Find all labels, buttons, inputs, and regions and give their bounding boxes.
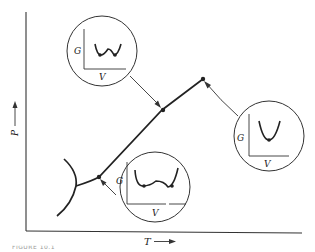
svg-text:G: G — [116, 176, 123, 186]
inset-bottom: G V — [116, 152, 190, 222]
sublimation-melting-curve — [57, 159, 76, 216]
point-lower — [97, 175, 101, 179]
inset-top-left: G V — [67, 16, 137, 86]
svg-text:G: G — [237, 133, 244, 143]
point-critical — [201, 77, 205, 81]
inset-right: G V — [234, 101, 304, 171]
y-axis-label: P — [10, 129, 20, 137]
pointer-arrow-bottom-inset — [100, 179, 116, 195]
x-axis — [26, 231, 302, 233]
x-axis-label: T — [144, 236, 152, 247]
point-middle — [161, 108, 165, 112]
pointer-arrow-right-inset — [204, 81, 238, 116]
y-axis-arrow-icon — [13, 101, 18, 126]
pointer-arrow-top-inset — [130, 76, 161, 108]
phase-diagram: P T G V G V — [0, 0, 315, 252]
svg-text:G: G — [74, 46, 81, 56]
x-axis-arrow-icon — [154, 239, 176, 244]
